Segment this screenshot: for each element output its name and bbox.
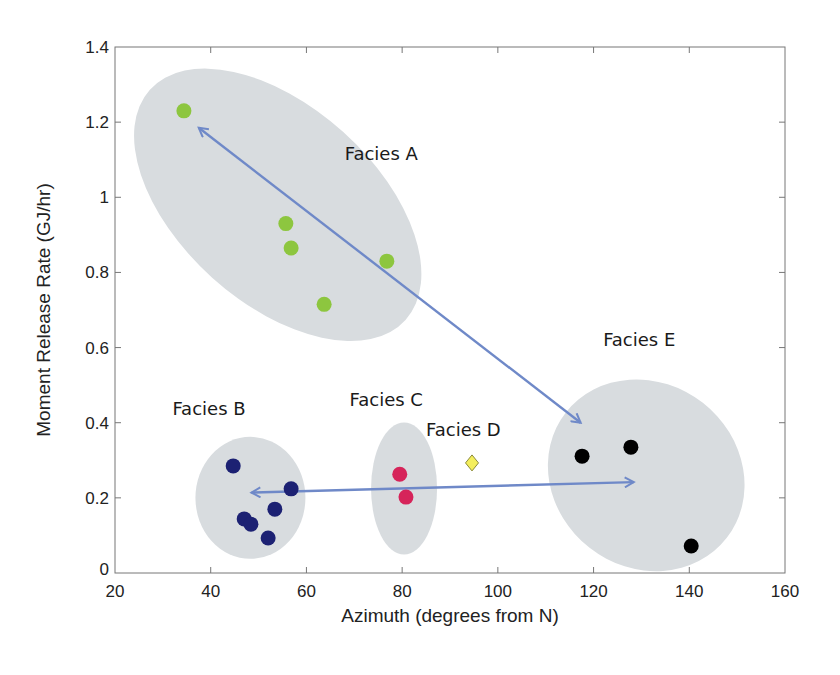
x-tick-label: 140 (675, 582, 703, 601)
data-point-facies-c (398, 490, 413, 505)
data-point-facies-c (392, 467, 407, 482)
y-tick-label: 0.2 (85, 489, 109, 508)
x-tick-label: 40 (201, 582, 220, 601)
data-point-facies-a (379, 254, 394, 269)
x-tick-label: 60 (297, 582, 316, 601)
scatter-chart: Facies AFacies BFacies CFacies DFacies E… (0, 0, 840, 675)
data-point-facies-e (575, 449, 590, 464)
label-facies-c: Facies C (350, 389, 423, 410)
label-facies-b: Facies B (172, 398, 245, 419)
y-axis-title: Moment Release Rate (GJ/hr) (33, 183, 54, 436)
data-point-facies-a (278, 216, 293, 231)
x-axis-title: Azimuth (degrees from N) (341, 605, 559, 626)
data-point-facies-a (317, 297, 332, 312)
data-point-facies-e (623, 440, 638, 455)
y-tick-label: 1.4 (85, 38, 109, 57)
label-facies-a: Facies A (345, 143, 419, 164)
x-tick-label: 80 (393, 582, 412, 601)
data-point-facies-a (284, 241, 299, 256)
data-point-facies-a (176, 103, 191, 118)
data-point-facies-b (267, 502, 282, 517)
data-point-facies-e (684, 538, 699, 553)
x-tick-label: 160 (771, 582, 799, 601)
x-tick-label: 100 (484, 582, 512, 601)
label-facies-d: Facies D (426, 419, 501, 440)
data-point-facies-b (261, 531, 276, 546)
region-facies-e (509, 340, 783, 611)
x-tick-label: 120 (579, 582, 607, 601)
region-facies-a (84, 17, 471, 393)
y-tick-label: 1.2 (85, 113, 109, 132)
data-point-facies-b (243, 517, 258, 532)
y-tick-label: 0.8 (85, 263, 109, 282)
y-tick-label: 0 (100, 560, 109, 579)
y-tick-label: 1 (100, 188, 109, 207)
label-facies-e: Facies E (603, 329, 675, 350)
data-point-facies-d (466, 455, 479, 471)
y-tick-label: 0.4 (85, 414, 109, 433)
x-tick-label: 20 (106, 582, 125, 601)
region-facies-b (195, 437, 305, 559)
data-point-facies-b (284, 481, 299, 496)
y-tick-label: 0.6 (85, 339, 109, 358)
data-point-facies-b (226, 458, 241, 473)
